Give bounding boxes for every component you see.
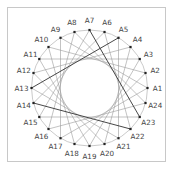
point-label-a24: A24: [148, 101, 162, 110]
point-label-a3: A3: [144, 50, 154, 59]
point-a15: [38, 116, 40, 118]
point-a1: [146, 87, 148, 89]
point-a4: [129, 46, 131, 48]
point-label-a9: A9: [51, 25, 61, 34]
point-label-a16: A16: [34, 132, 48, 141]
point-label-a15: A15: [24, 118, 38, 127]
point-a16: [47, 128, 49, 130]
point-label-a4: A4: [133, 35, 143, 44]
point-a20: [103, 143, 105, 145]
chord-a2-a10: [48, 47, 145, 73]
point-a13: [30, 87, 32, 89]
point-label-a2: A2: [150, 66, 160, 75]
point-label-a13: A13: [14, 84, 28, 93]
point-label-a19: A19: [82, 152, 96, 161]
point-a12: [32, 72, 34, 74]
point-label-a23: A23: [141, 118, 155, 127]
highlighted-chord-a14-a22: [33, 103, 130, 129]
point-label-a5: A5: [119, 25, 129, 34]
chord-a22-a6: [105, 32, 131, 129]
point-label-a8: A8: [67, 18, 77, 27]
point-a22: [129, 128, 131, 130]
point-a3: [139, 58, 141, 60]
chord-a4-a12: [33, 47, 130, 73]
point-a6: [103, 31, 105, 33]
point-label-a20: A20: [100, 149, 114, 158]
point-a8: [73, 31, 75, 33]
point-label-a12: A12: [17, 66, 31, 75]
point-a24: [144, 102, 146, 104]
point-a11: [38, 58, 40, 60]
point-label-a7: A7: [85, 16, 95, 25]
chord-a8-a16: [48, 32, 74, 129]
point-a17: [59, 137, 61, 139]
chord-a10-a18: [48, 47, 74, 144]
point-label-a21: A21: [116, 142, 130, 151]
point-a10: [47, 46, 49, 48]
point-label-a18: A18: [65, 149, 79, 158]
point-a18: [73, 143, 75, 145]
point-label-a1: A1: [153, 84, 163, 93]
chord-a20-a4: [105, 47, 131, 144]
point-a19: [88, 145, 90, 147]
point-a2: [144, 72, 146, 74]
point-a5: [117, 37, 119, 39]
point-label-a14: A14: [17, 101, 31, 110]
point-label-a11: A11: [24, 50, 38, 59]
point-label-a22: A22: [131, 132, 145, 141]
star-polygon-diagram: A1A2A3A4A5A6A7A8A9A10A11A12A13A14A15A16A…: [0, 0, 174, 170]
point-label-a10: A10: [34, 35, 48, 44]
point-label-a17: A17: [48, 142, 62, 151]
point-a9: [59, 37, 61, 39]
point-label-a6: A6: [102, 18, 112, 27]
chord-a16-a24: [48, 103, 145, 129]
point-a21: [117, 137, 119, 139]
point-a7: [88, 29, 90, 31]
point-a14: [32, 102, 34, 104]
